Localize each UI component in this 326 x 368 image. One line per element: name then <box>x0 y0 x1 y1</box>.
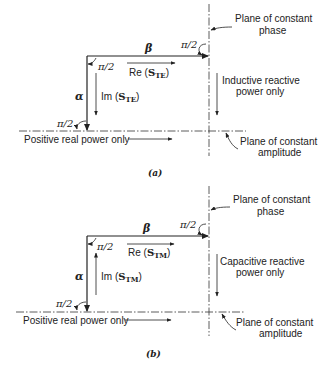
figure-caption-b: (b) <box>146 349 161 359</box>
im-label-symbol: S <box>118 91 125 102</box>
reactive-label-line1: Capacitive reactive <box>220 256 305 267</box>
phase-plane-label-line2: phase <box>259 25 287 36</box>
re-label-suffix: ) <box>167 247 170 258</box>
angle-label-top-right: π/2 <box>179 219 196 230</box>
phase-pointer <box>211 27 232 30</box>
diagram-canvas: β α π/2 π/2 π/2 Re (STE) Im (STE) Plane … <box>0 0 326 368</box>
figure-b: β α π/2 π/2 π/2 Re (STM) Im (STM) Plane … <box>16 186 313 359</box>
angle-arc-top-right <box>199 44 206 55</box>
angle-label-bottom: π/2 <box>56 118 73 129</box>
im-label-prefix: Im ( <box>101 91 119 102</box>
phase-plane-label-line1: Plane of constant <box>235 13 312 24</box>
im-label-subscript: TM <box>125 275 138 284</box>
re-label-prefix: Re ( <box>129 67 149 78</box>
angle-arc-bottom <box>77 121 86 129</box>
angle-arc-corner <box>88 58 96 64</box>
im-label: Im (STE) <box>101 91 139 104</box>
angle-label-bottom: π/2 <box>55 298 72 309</box>
reactive-label-line2: power only <box>236 267 284 278</box>
alpha-label: α <box>75 90 84 103</box>
real-power-label: Positive real power only <box>23 315 129 326</box>
re-label: Re (STE) <box>129 67 169 80</box>
figure-caption-a: (a) <box>148 168 162 178</box>
phase-plane-label-line1: Plane of constant <box>233 194 310 205</box>
phase-pointer <box>211 207 230 210</box>
im-label-subscript: TE <box>125 95 136 104</box>
re-label-symbol: S <box>148 67 155 78</box>
amplitude-plane-label-line1: Plane of constant <box>236 317 313 328</box>
im-label-suffix: ) <box>138 271 141 282</box>
re-label-subscript: TE <box>155 71 166 80</box>
amplitude-plane-label-line1: Plane of constant <box>240 136 317 147</box>
angle-arc-top-right <box>199 224 206 235</box>
re-label: Re (STM) <box>128 247 170 260</box>
re-label-suffix: ) <box>166 67 169 78</box>
reactive-label-line1: Inductive reactive <box>222 75 300 86</box>
re-label-symbol: S <box>147 247 154 258</box>
im-label-symbol: S <box>118 271 125 282</box>
figure-a: β α π/2 π/2 π/2 Re (STE) Im (STE) Plane … <box>19 4 317 178</box>
amplitude-pointer <box>226 133 238 149</box>
beta-label: β <box>144 42 153 55</box>
amplitude-plane-label-line2: amplitude <box>258 147 302 158</box>
re-label-prefix: Re ( <box>128 247 148 258</box>
angle-label-corner: π/2 <box>96 241 113 252</box>
im-label: Im (STM) <box>101 271 142 284</box>
amplitude-plane-label-line2: amplitude <box>259 328 303 339</box>
beta-label: β <box>142 222 151 235</box>
im-label-suffix: ) <box>136 91 139 102</box>
phase-plane-label-line2: phase <box>257 206 285 217</box>
alpha-label: α <box>75 270 84 283</box>
reactive-label-line2: power only <box>236 86 284 97</box>
angle-label-top-right: π/2 <box>180 39 197 50</box>
im-label-prefix: Im ( <box>101 271 119 282</box>
angle-label-corner: π/2 <box>97 61 114 72</box>
amplitude-pointer <box>222 314 236 330</box>
re-label-subscript: TM <box>154 251 167 260</box>
real-power-label: Positive real power only <box>24 134 130 145</box>
angle-arc-corner <box>88 238 96 244</box>
angle-arc-bottom <box>77 302 86 310</box>
